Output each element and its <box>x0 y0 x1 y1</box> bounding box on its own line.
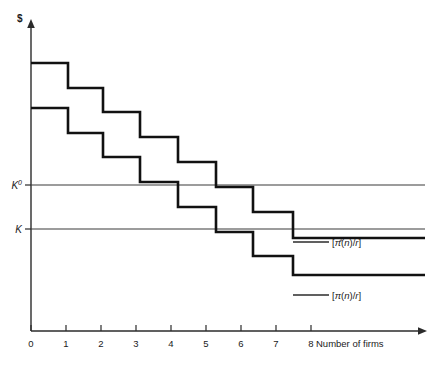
reference-line-k: K <box>15 224 425 235</box>
x-tick-label-1: 1 <box>63 338 68 349</box>
x-tick-label-5: 5 <box>203 338 208 349</box>
k0-axis-label: K0 <box>11 179 22 191</box>
chart-figure: $ Number of firms 0 1 2 3 4 5 6 <box>0 0 440 366</box>
pi-over-r-label: [π(n)/r] <box>332 290 361 301</box>
x-tick-label-0: 0 <box>28 338 33 349</box>
x-tick-label-2: 2 <box>98 338 103 349</box>
x-axis-ticks <box>31 325 311 331</box>
x-tick-label-3: 3 <box>133 338 138 349</box>
x-tick-label-6: 6 <box>238 338 243 349</box>
y-axis: $ <box>17 13 35 331</box>
x-tick-label-7: 7 <box>273 338 278 349</box>
x-tick-labels: 0 1 2 3 4 5 6 7 8 <box>28 338 313 349</box>
x-axis: Number of firms <box>31 327 427 349</box>
reference-line-k0: K0 <box>11 179 425 191</box>
step-function-chart: $ Number of firms 0 1 2 3 4 5 6 <box>0 0 440 366</box>
k-axis-label: K <box>15 224 23 235</box>
series-pi-hat-over-r-step <box>31 63 425 238</box>
x-axis-arrowhead <box>418 327 427 335</box>
pi-hat-over-r-label: [π̂(n)/r] <box>332 237 361 248</box>
x-tick-label-4: 4 <box>168 338 173 349</box>
y-axis-arrowhead <box>27 19 35 28</box>
series-pi-over-r-step <box>31 108 425 275</box>
x-axis-label: Number of firms <box>316 338 384 349</box>
y-axis-label: $ <box>17 13 23 24</box>
series-label-pi-over-r: [π(n)/r] <box>293 290 361 301</box>
x-tick-label-8: 8 <box>308 338 313 349</box>
